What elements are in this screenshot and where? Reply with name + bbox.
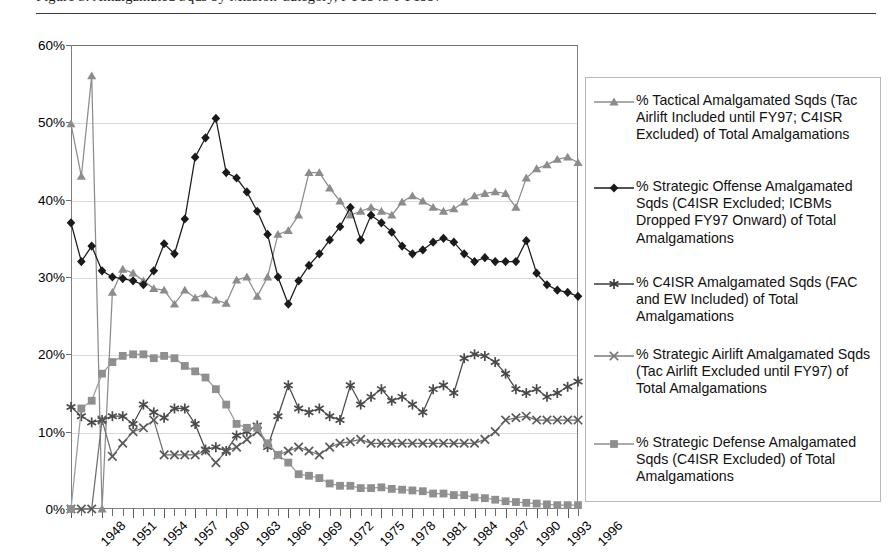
data-point-square bbox=[398, 486, 406, 494]
data-point-square bbox=[150, 354, 158, 362]
chart-area: 0%10%20%30%40%50%60% 1948195119541957196… bbox=[0, 22, 894, 552]
data-point-triangle bbox=[408, 191, 417, 199]
data-point-square bbox=[212, 385, 220, 393]
data-point-diamond bbox=[512, 257, 521, 266]
data-point-asterisk bbox=[139, 400, 148, 410]
chart-page: Figure 5: Amalgamated Sqds by Mission Ca… bbox=[0, 0, 894, 552]
data-point-square bbox=[346, 482, 354, 490]
x-axis-tick-label: 1972 bbox=[346, 518, 377, 549]
data-point-square bbox=[88, 397, 96, 405]
x-axis-major-tick bbox=[133, 509, 134, 518]
header-rule bbox=[36, 13, 876, 14]
data-point-triangle bbox=[273, 230, 282, 238]
x-axis-major-tick bbox=[319, 509, 320, 518]
x-axis-tick-label: 1990 bbox=[532, 518, 563, 549]
data-point-diamond bbox=[108, 272, 117, 281]
y-axis-tick-label: 0% bbox=[19, 502, 65, 517]
data-point-triangle bbox=[325, 184, 334, 192]
data-point-x bbox=[212, 458, 220, 466]
data-point-triangle bbox=[180, 286, 189, 294]
data-point-x bbox=[139, 424, 147, 432]
data-point-diamond bbox=[522, 236, 531, 245]
x-axis-minor-tick bbox=[526, 509, 527, 516]
x-axis-minor-tick bbox=[547, 509, 548, 516]
data-point-asterisk bbox=[574, 376, 583, 386]
data-point-x bbox=[108, 452, 116, 460]
data-point-diamond bbox=[98, 266, 107, 275]
data-point-square bbox=[129, 350, 137, 358]
data-point-diamond bbox=[408, 249, 417, 258]
data-point-triangle bbox=[294, 211, 303, 219]
y-axis-tick-label: 30% bbox=[19, 270, 65, 285]
x-axis-minor-tick bbox=[361, 509, 362, 516]
data-point-square bbox=[202, 374, 210, 382]
x-axis-minor-tick bbox=[247, 509, 248, 516]
legend-item[interactable]: % Strategic Defense Amalgamated Sqds (C4… bbox=[592, 434, 876, 486]
x-axis-minor-tick bbox=[309, 509, 310, 516]
x-axis-major-tick bbox=[381, 509, 382, 518]
data-point-square bbox=[522, 499, 530, 507]
data-point-triangle bbox=[284, 226, 293, 234]
data-point-square bbox=[315, 474, 323, 482]
legend-item[interactable]: % Strategic Offense Amalgamated Sqds (C4… bbox=[592, 178, 876, 247]
data-point-square bbox=[512, 498, 520, 506]
x-axis-tick-label: 1951 bbox=[129, 518, 160, 549]
data-point-square bbox=[233, 420, 241, 428]
data-point-triangle bbox=[491, 188, 500, 196]
x-axis-tick-label: 1984 bbox=[470, 518, 501, 549]
x-axis-minor-tick bbox=[340, 509, 341, 516]
legend-item[interactable]: % C4ISR Amalgamated Sqds (FAC and EW Inc… bbox=[592, 274, 876, 326]
legend-marker-triangle-icon bbox=[592, 93, 636, 111]
x-axis-minor-tick bbox=[557, 509, 558, 516]
x-axis-major-tick bbox=[506, 509, 507, 518]
data-point-triangle bbox=[398, 198, 407, 206]
data-point-square bbox=[181, 362, 189, 370]
data-point-square bbox=[553, 501, 561, 509]
data-point-square bbox=[450, 491, 458, 499]
data-point-square bbox=[274, 451, 282, 459]
x-axis-tick-label: 1960 bbox=[222, 518, 253, 549]
data-point-triangle bbox=[87, 72, 96, 80]
x-axis-minor-tick bbox=[433, 509, 434, 516]
data-point-square bbox=[98, 370, 106, 378]
data-point-square bbox=[419, 487, 427, 495]
x-axis-major-tick bbox=[288, 509, 289, 518]
x-axis-minor-tick bbox=[516, 509, 517, 516]
x-axis-tick-label: 1993 bbox=[563, 518, 594, 549]
data-point-diamond bbox=[481, 253, 490, 262]
data-point-square bbox=[378, 483, 386, 491]
data-point-asterisk bbox=[449, 388, 458, 398]
data-point-diamond bbox=[501, 257, 510, 266]
legend-item[interactable]: % Tactical Amalgamated Sqds (Tac Airlift… bbox=[592, 92, 876, 144]
data-point-triangle bbox=[211, 296, 220, 304]
x-axis-minor-tick bbox=[143, 509, 144, 516]
data-point-square bbox=[222, 401, 230, 409]
data-point-diamond bbox=[212, 114, 221, 123]
data-point-asterisk bbox=[408, 400, 417, 410]
data-point-asterisk bbox=[294, 403, 303, 413]
data-point-triangle bbox=[118, 265, 127, 273]
data-point-square bbox=[440, 490, 448, 498]
caption-cropped: Figure 5: Amalgamated Sqds by Mission Ca… bbox=[0, 0, 894, 12]
x-axis-major-tick bbox=[443, 509, 444, 518]
x-axis-major-tick bbox=[195, 509, 196, 518]
x-axis-major-tick bbox=[412, 509, 413, 518]
series-line bbox=[71, 416, 578, 509]
x-axis-tick-label: 1963 bbox=[253, 518, 284, 549]
data-point-square bbox=[388, 485, 396, 493]
data-point-x bbox=[305, 447, 313, 455]
y-axis-tick-label: 10% bbox=[19, 424, 65, 439]
x-axis-tick-label: 1987 bbox=[501, 518, 532, 549]
data-point-triangle bbox=[201, 290, 210, 298]
data-point-square bbox=[160, 352, 168, 360]
x-axis-major-tick bbox=[350, 509, 351, 518]
legend-marker-square-icon bbox=[592, 435, 636, 453]
x-axis-tick-label: 1948 bbox=[97, 518, 128, 549]
data-point-square bbox=[284, 459, 292, 467]
legend-item[interactable]: % Strategic Airlift Amalgamated Sqds (Ta… bbox=[592, 346, 876, 398]
data-point-square bbox=[67, 505, 75, 513]
legend-label: % C4ISR Amalgamated Sqds (FAC and EW Inc… bbox=[636, 274, 876, 326]
data-point-square bbox=[502, 497, 510, 505]
data-point-square bbox=[119, 352, 127, 360]
data-point-triangle bbox=[429, 203, 438, 211]
